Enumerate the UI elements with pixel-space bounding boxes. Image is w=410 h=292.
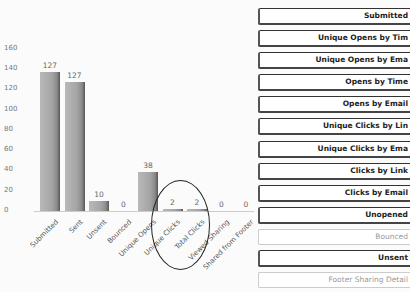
y-tick-label: 140 [4, 64, 26, 72]
report-button-submitted[interactable]: Submitted [258, 8, 410, 25]
x-tick-label: Sent [67, 218, 84, 235]
report-button-unique-clicks-by-lin[interactable]: Unique Clicks by Lin [258, 118, 410, 135]
report-button-unique-opens-by-ema[interactable]: Unique Opens by Ema [258, 52, 410, 69]
y-tick-label: 40 [4, 165, 26, 173]
y-tick-label: 60 [4, 145, 26, 153]
button-label: Unsent [378, 251, 408, 265]
button-label: Submitted [364, 9, 408, 23]
report-button-unopened[interactable]: Unopened [258, 207, 410, 224]
button-label: Unopened [365, 208, 408, 222]
button-label: Unique Clicks by Lin [323, 119, 408, 133]
bar-submitted[interactable] [40, 72, 60, 211]
value-label: 38 [136, 161, 160, 170]
report-button-clicks-by-email[interactable]: Clicks by Email [258, 185, 410, 202]
x-tick-label: Submitted [28, 218, 59, 249]
button-label: Unique Opens by Tim [318, 31, 408, 45]
x-tick-label: Shared from Footer [202, 218, 255, 271]
value-label: 0 [234, 200, 258, 209]
report-button-opens-by-email[interactable]: Opens by Email [258, 96, 410, 113]
bar-chart: 020406080100120140160127Submitted127Sent… [0, 0, 255, 281]
y-tick-label: 80 [4, 125, 26, 133]
report-button-unique-opens-by-tim[interactable]: Unique Opens by Tim [258, 30, 410, 47]
button-label: Clicks by Link [350, 164, 408, 178]
annotation-ellipse [151, 180, 210, 270]
y-tick-label: 120 [4, 84, 26, 92]
button-label: Footer Sharing Detail [328, 273, 408, 287]
x-axis-line [34, 211, 254, 212]
value-label: 10 [87, 190, 111, 199]
y-tick-label: 160 [4, 44, 26, 52]
value-label: 0 [112, 200, 136, 209]
report-button-list: SubmittedUnique Opens by TimUnique Opens… [258, 8, 410, 292]
report-button-unsent[interactable]: Unsent [258, 250, 410, 267]
button-label: Opens by Time [345, 75, 408, 89]
button-label: Clicks by Email [345, 186, 408, 200]
report-button-opens-by-time[interactable]: Opens by Time [258, 74, 410, 91]
report-button-clicks-by-link[interactable]: Clicks by Link [258, 163, 410, 180]
value-label: 0 [210, 200, 234, 209]
bar-sent[interactable] [65, 82, 85, 211]
y-tick-label: 20 [4, 186, 26, 194]
bar-unsent[interactable] [89, 201, 109, 211]
y-tick-label: 0 [4, 206, 26, 214]
button-label: Unique Clicks by Ema [318, 142, 408, 156]
report-button-footer-sharing-detail[interactable]: Footer Sharing Detail [258, 272, 410, 288]
report-button-bounced[interactable]: Bounced [258, 229, 410, 245]
report-button-unique-clicks-by-ema[interactable]: Unique Clicks by Ema [258, 141, 410, 158]
value-label: 127 [63, 71, 87, 80]
value-label: 127 [38, 61, 62, 70]
y-tick-label: 100 [4, 105, 26, 113]
button-label: Opens by Email [343, 97, 408, 111]
button-label: Bounced [375, 230, 408, 244]
button-label: Unique Opens by Ema [315, 53, 408, 67]
x-tick-label: Unsent [86, 218, 109, 241]
